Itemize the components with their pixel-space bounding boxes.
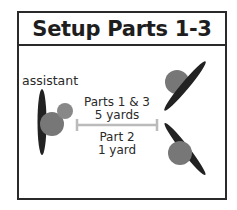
parts-1-3-distance: 5 yards [95,108,140,122]
ball-icon [57,103,73,119]
part-2-label: Part 2 [99,130,134,144]
part-2-distance: 1 yard [98,143,136,157]
assistant-figure [38,89,74,155]
assistant-label: assistant [22,73,78,88]
player-bottom-right [162,121,209,178]
player-body-icon [168,141,192,165]
diagram-canvas: assistant Parts 1 & 3 5 yards Part 2 1 y… [0,0,237,210]
parts-1-3-label: Parts 1 & 3 [84,95,150,109]
player-top-right [161,59,208,113]
